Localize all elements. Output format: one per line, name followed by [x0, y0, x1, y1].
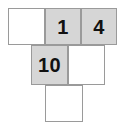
grid-cell-label-r1c2: 1	[57, 16, 69, 36]
grid-cell-r1c3[interactable]: 4	[81, 8, 117, 45]
number-grid-figure: 1410	[0, 0, 127, 128]
grid-cell-r2c1[interactable]: 10	[31, 45, 68, 85]
grid-cell-label-r2c1: 10	[38, 55, 61, 75]
grid-cell-r2c2[interactable]	[68, 45, 105, 85]
grid-cell-r3c1[interactable]	[45, 85, 83, 122]
grid-cell-r1c2[interactable]: 1	[45, 8, 81, 45]
grid-cell-label-r1c3: 4	[93, 16, 105, 36]
grid-cell-r1c1[interactable]	[8, 8, 45, 45]
